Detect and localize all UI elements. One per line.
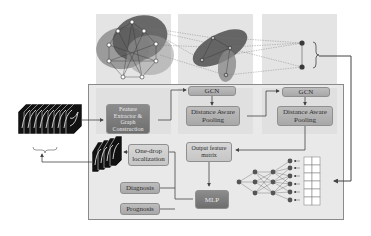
mlp-box: MLP (195, 190, 229, 209)
gcn-box-1: GCN (188, 86, 236, 96)
gcn-box-2: GCN (282, 87, 330, 97)
diagnosis-box: Diagnosis (120, 182, 160, 194)
distance-aware-pooling-box-1: Distance Aware Pooling (186, 106, 240, 126)
bracket-icon (313, 42, 319, 68)
feature-grid (304, 157, 320, 205)
neural-network (237, 157, 320, 205)
distance-aware-pooling-box-2: Distance Aware Pooling (277, 106, 333, 126)
one-drop-localization-box: One-drop localization (128, 144, 169, 166)
graph-level-3 (299, 40, 319, 69)
output-feature-matrix-box: Output feature matrix (186, 142, 232, 162)
graph-level-1 (93, 8, 174, 79)
prognosis-box: Prognosis (120, 203, 160, 215)
feature-extractor-box: Feature Extractor & Graph Construction (106, 104, 150, 134)
graph-level-2 (187, 22, 253, 84)
ct-image-stack (18, 104, 82, 153)
localized-slice-stack (92, 136, 122, 172)
stack-brace-icon (33, 147, 57, 153)
